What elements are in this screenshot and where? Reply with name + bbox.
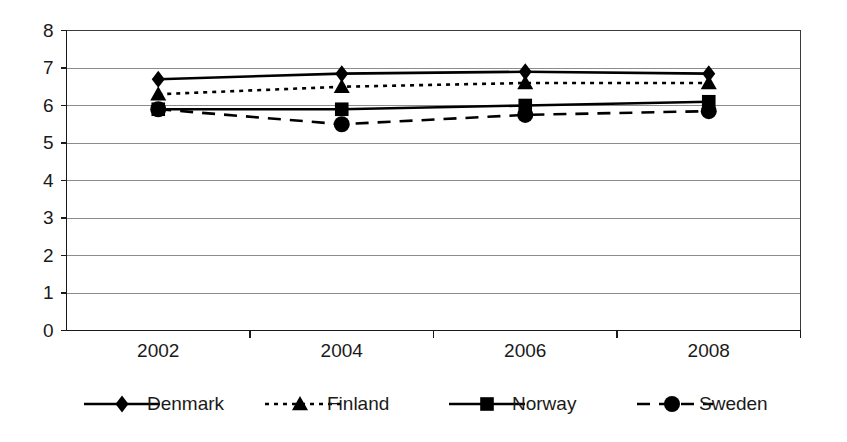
legend-item-norway[interactable]: Norway (449, 393, 577, 414)
chart-canvas: 012345678 2002200420062008 DenmarkFinlan… (0, 0, 847, 442)
circle-marker-icon (150, 101, 166, 117)
circle-marker-icon (334, 116, 350, 132)
y-tick-label: 8 (43, 20, 54, 41)
y-axis: 012345678 (43, 20, 67, 341)
chart-legend: DenmarkFinlandNorwaySweden (84, 393, 768, 414)
y-tick-label: 7 (43, 57, 54, 78)
circle-marker-icon (701, 103, 717, 119)
legend-item-finland[interactable]: Finland (265, 393, 389, 414)
legend-label: Sweden (699, 393, 768, 414)
legend-label: Finland (327, 393, 389, 414)
series-denmark (152, 63, 716, 88)
y-tick-label: 3 (43, 207, 54, 228)
square-marker-icon (480, 397, 494, 411)
x-tick-label: 2008 (688, 340, 730, 361)
triangle-marker-icon (150, 86, 166, 100)
legend-item-sweden[interactable]: Sweden (637, 393, 768, 414)
y-tick-label: 2 (43, 245, 54, 266)
gridlines (67, 31, 801, 294)
x-tick-label: 2006 (504, 340, 546, 361)
legend-item-denmark[interactable]: Denmark (84, 393, 225, 414)
y-tick-label: 5 (43, 132, 54, 153)
data-series (150, 63, 717, 132)
triangle-marker-icon (701, 75, 717, 89)
y-tick-label: 0 (43, 320, 54, 341)
series-line-finland (158, 83, 709, 94)
square-marker-icon (335, 102, 349, 116)
legend-label: Norway (512, 393, 577, 414)
series-finland (150, 75, 717, 100)
circle-marker-icon (517, 107, 533, 123)
y-tick-label: 6 (43, 95, 54, 116)
series-line-sweden (158, 109, 709, 124)
line-chart: 012345678 2002200420062008 DenmarkFinlan… (0, 0, 847, 442)
x-tick-label: 2004 (321, 340, 364, 361)
series-line-denmark (158, 72, 709, 80)
y-tick-label: 4 (43, 170, 54, 191)
circle-marker-icon (664, 396, 680, 412)
x-tick-label: 2002 (137, 340, 179, 361)
x-axis: 2002200420062008 (67, 331, 801, 362)
diamond-marker-icon (116, 396, 129, 413)
y-tick-label: 1 (43, 282, 54, 303)
diamond-marker-icon (152, 71, 165, 88)
legend-label: Denmark (147, 393, 225, 414)
